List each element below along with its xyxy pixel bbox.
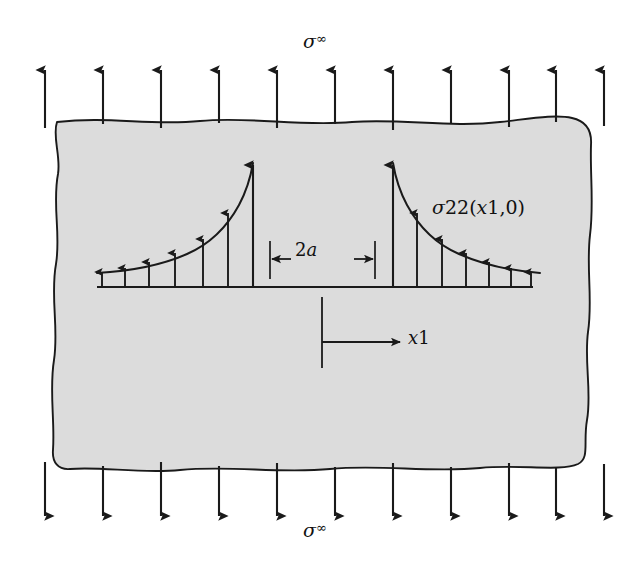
x-subscript: 1: [487, 196, 499, 218]
x1-axis-label: x1: [408, 327, 430, 348]
x-glyph: x: [477, 196, 488, 218]
stress-function-label: σ22(x1,0): [432, 196, 525, 218]
a-glyph: a: [306, 239, 317, 260]
body-outline: [52, 117, 592, 472]
infinity-glyph-bottom: ∞: [316, 520, 327, 535]
x1-x-glyph: x: [408, 327, 418, 348]
crack-length-label: 2a: [295, 239, 317, 260]
sigma-glyph-bottom: σ: [303, 519, 316, 541]
sigma-glyph-22: σ: [432, 196, 445, 218]
paren-close: ): [518, 196, 525, 218]
zero-glyph: 0: [505, 196, 517, 218]
remote-stress-label-bottom: σ∞: [303, 519, 327, 541]
x1-subscript: 1: [418, 327, 429, 348]
sigma22-subscript: 22: [445, 196, 469, 218]
two-glyph: 2: [295, 239, 306, 260]
remote-stress-label-top: σ∞: [303, 30, 327, 52]
paren-open: (: [469, 196, 476, 218]
sigma-glyph-top: σ: [303, 30, 316, 52]
material-body: [52, 117, 592, 472]
crack-stress-diagram: [0, 0, 631, 570]
infinity-glyph-top: ∞: [316, 31, 327, 46]
